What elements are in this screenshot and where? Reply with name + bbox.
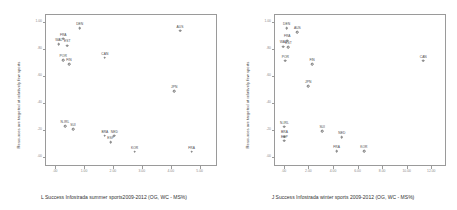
plot-area-winter: Resources are targeted at relatively few… <box>229 0 457 210</box>
data-point <box>179 30 182 33</box>
data-point-label: EST <box>64 40 70 43</box>
y-axis-tick-label: .80 <box>32 47 42 50</box>
y-axis-tick-label: 1.00 <box>261 20 271 23</box>
y-axis-tick <box>43 157 46 158</box>
plot-panel-summer <box>45 14 217 166</box>
data-point-label: FRA <box>188 146 195 149</box>
data-point <box>109 141 112 144</box>
data-point <box>58 43 61 46</box>
y-axis-title-winter: Resources are targeted at relatively few… <box>246 30 250 180</box>
data-point <box>78 27 81 30</box>
y-axis-tick <box>272 22 275 23</box>
y-axis-tick-label: .60 <box>32 74 42 77</box>
plot-area-summer: Resources are targeted at relatively few… <box>0 0 228 210</box>
y-axis-tick-label: .80 <box>261 47 271 50</box>
data-point-label: BRA <box>101 130 108 133</box>
x-axis-tick-label: 5.00 <box>196 170 203 173</box>
scatter-chart-winter: Resources are targeted at relatively few… <box>229 0 457 210</box>
y-axis-tick <box>272 157 275 158</box>
x-axis-tick-label: 1.00 <box>81 170 88 173</box>
scatter-chart-summer: Resources are targeted at relatively few… <box>0 0 228 210</box>
x-axis-title-summer: L Success Infostrada summer sports2009-2… <box>0 194 228 200</box>
data-point <box>296 31 299 34</box>
data-point-label: AUS <box>294 27 301 30</box>
data-point-label: FRA <box>284 35 291 38</box>
x-axis-tick-label: 8.00 <box>379 170 386 173</box>
x-axis-tick-label: 6.00 <box>354 170 361 173</box>
data-point-label: POR <box>282 55 289 58</box>
data-point-label: EST <box>285 42 291 45</box>
data-point-label: KOR <box>131 146 138 149</box>
data-point-label: JPN <box>171 86 177 89</box>
data-point-label: FRA <box>60 33 67 36</box>
x-axis-title-winter: J Success Infostrada winter sports 2009-… <box>229 194 457 200</box>
y-axis-title-summer: Resources are targeted at relatively few… <box>17 30 21 180</box>
y-axis-tick-label: .40 <box>261 101 271 104</box>
y-axis-tick-label: .00 <box>261 155 271 158</box>
data-point-label: NED <box>111 130 118 133</box>
data-point <box>363 150 366 153</box>
data-point <box>283 125 286 128</box>
data-point-label: NED <box>338 132 345 135</box>
data-point <box>341 136 344 139</box>
data-point <box>72 128 75 131</box>
x-axis-tick-label: 4.00 <box>167 170 174 173</box>
y-axis-tick-label: .20 <box>261 128 271 131</box>
plot-panel-winter <box>274 14 446 166</box>
data-point <box>64 125 67 128</box>
x-axis-tick-label: 2.00 <box>305 170 312 173</box>
data-point <box>311 63 314 66</box>
data-point <box>62 59 65 62</box>
data-point <box>307 85 310 88</box>
y-axis-tick-label: .00 <box>32 155 42 158</box>
data-point-label: ESP <box>281 135 288 138</box>
x-axis-tick-label: 3.00 <box>139 170 146 173</box>
y-axis-tick-label: 1.00 <box>32 20 42 23</box>
data-point-label: SUI <box>70 124 76 127</box>
y-axis-tick <box>272 76 275 77</box>
data-point-label: DEN <box>283 23 290 26</box>
x-axis-tick-label: 12.00 <box>427 170 436 173</box>
data-point-label: WAL <box>55 39 62 42</box>
y-axis-tick <box>272 103 275 104</box>
data-point <box>190 151 193 154</box>
data-point-label: CAN <box>101 52 108 55</box>
data-point <box>133 151 136 154</box>
data-point <box>422 60 425 63</box>
data-point <box>284 60 287 63</box>
x-axis-tick-label: 4.00 <box>330 170 337 173</box>
x-axis-tick-label: 2.00 <box>110 170 117 173</box>
data-point-label: SUI <box>319 126 325 129</box>
y-axis-tick-label: .20 <box>32 128 42 131</box>
data-point-label: FIN <box>309 59 314 62</box>
y-axis-tick <box>43 76 46 77</box>
data-point-label: N-IRL <box>280 121 289 124</box>
data-point <box>283 139 286 142</box>
y-axis-tick <box>272 130 275 131</box>
y-axis-tick <box>43 103 46 104</box>
y-axis-tick <box>272 49 275 50</box>
data-point-label: FIN <box>66 59 71 62</box>
data-point-label: N-IRL <box>61 121 70 124</box>
data-point <box>66 44 69 47</box>
x-axis-tick-label: 10.00 <box>402 170 411 173</box>
y-axis-tick <box>43 49 46 50</box>
data-point <box>68 63 71 66</box>
data-point <box>335 150 338 153</box>
data-point <box>282 45 285 48</box>
data-point-label: CAN <box>420 55 427 58</box>
y-axis-tick-label: .60 <box>261 74 271 77</box>
data-point <box>321 130 324 133</box>
data-point <box>287 46 290 49</box>
x-axis-tick-label: .00 <box>281 170 286 173</box>
data-point-label: FRA <box>333 146 340 149</box>
y-axis-tick <box>43 130 46 131</box>
data-point-label: KOR <box>360 146 367 149</box>
data-point-label: DEN <box>76 23 83 26</box>
data-point <box>285 27 288 30</box>
data-point <box>104 56 107 59</box>
y-axis-tick-label: .40 <box>32 101 42 104</box>
data-point-label: AUS <box>177 25 184 28</box>
y-axis-tick <box>43 22 46 23</box>
data-point-label: JPN <box>305 81 311 84</box>
